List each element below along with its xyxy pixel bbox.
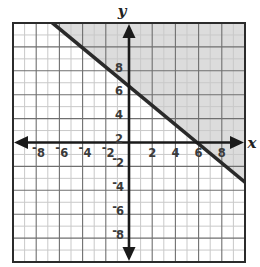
x-axis-label: x	[247, 134, 258, 152]
x-tick-label: 4	[83, 146, 91, 160]
x-tick-label: 4	[171, 146, 179, 160]
y-tick-label: 2	[115, 132, 123, 146]
x-tick-label: 8	[37, 146, 45, 160]
y-tick-label: 6	[115, 84, 123, 98]
y-axis-label: y	[117, 2, 128, 20]
x-tick-label: 2	[107, 146, 115, 160]
coordinate-plane-figure: y x 8 6 4 2 - 2 - 4 - 6 - 8 - 8 - 6 - 4 …	[0, 0, 260, 267]
x-tick-label: 6	[60, 146, 68, 160]
graph-canvas: y x 8 6 4 2 - 2 - 4 - 6 - 8 - 8 - 6 - 4 …	[0, 0, 260, 267]
x-tick-label: 8	[218, 146, 226, 160]
x-tick-label: 6	[195, 146, 203, 160]
x-tick-label: 2	[148, 146, 156, 160]
y-tick-label: 8	[116, 228, 124, 242]
y-tick-label: 6	[116, 204, 124, 218]
y-tick-label: 8	[115, 61, 123, 75]
y-tick-label: 4	[115, 108, 123, 122]
y-tick-label: 4	[116, 180, 124, 194]
y-tick-label: 2	[116, 156, 124, 170]
